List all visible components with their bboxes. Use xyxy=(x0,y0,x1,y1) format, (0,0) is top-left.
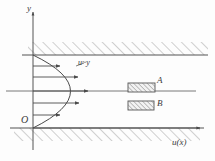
block-a-label: A xyxy=(157,76,163,85)
block-b xyxy=(128,101,154,110)
profile-relation-label: u~y xyxy=(78,59,90,67)
velocity-profile-figure: y O u(x) u~y A B xyxy=(0,0,215,161)
top-wall-hatching xyxy=(28,42,208,55)
block-b-hatching xyxy=(128,101,154,110)
y-axis-label: y xyxy=(27,4,31,13)
block-b-label: B xyxy=(157,99,163,108)
origin-label: O xyxy=(21,115,28,125)
x-axis-label-text: u(x) xyxy=(172,137,187,147)
velocity-arrow-group xyxy=(33,66,88,115)
top-wall xyxy=(22,42,208,55)
x-axis-label: u(x) xyxy=(172,138,187,147)
block-a xyxy=(128,83,155,92)
block-a-hatching xyxy=(128,83,155,92)
